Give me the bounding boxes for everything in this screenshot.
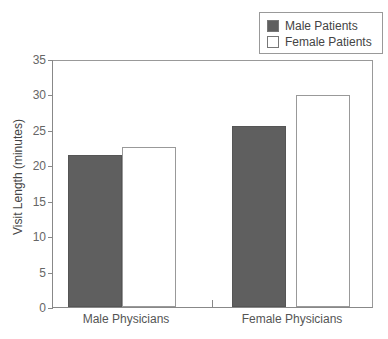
y-tick-label: 35 <box>26 53 46 67</box>
y-axis-title: Visit Length (minutes) <box>11 112 25 242</box>
y-tick <box>48 166 53 167</box>
legend-item-male: Male Patients <box>267 19 358 33</box>
y-tick <box>48 95 53 96</box>
legend: Male Patients Female Patients <box>259 12 383 54</box>
legend-label: Female Patients <box>285 35 372 49</box>
bar-female-patients <box>296 95 350 307</box>
y-tick-label: 10 <box>26 230 46 244</box>
legend-item-female: Female Patients <box>267 35 372 49</box>
y-tick-label: 5 <box>26 266 46 280</box>
swatch-male <box>267 20 279 32</box>
x-label-male-physicians: Male Physicians <box>56 312 196 326</box>
y-tick <box>48 237 53 238</box>
plot-area <box>52 60 373 308</box>
y-tick-label: 15 <box>26 195 46 209</box>
bar-male-patients <box>68 155 122 307</box>
y-tick-label: 20 <box>26 159 46 173</box>
y-tick <box>48 202 53 203</box>
x-label-female-physicians: Female Physicians <box>222 312 362 326</box>
swatch-female <box>267 36 279 48</box>
bar-male-patients <box>232 126 286 307</box>
y-tick <box>48 60 53 61</box>
y-tick <box>48 273 53 274</box>
y-tick-label: 25 <box>26 124 46 138</box>
y-tick <box>48 308 53 309</box>
y-tick-label: 30 <box>26 88 46 102</box>
legend-label: Male Patients <box>285 19 358 33</box>
y-tick-label: 0 <box>26 301 46 315</box>
chart: Male Patients Female Patients Visit Leng… <box>0 0 388 339</box>
x-tick <box>212 300 213 307</box>
y-tick <box>48 131 53 132</box>
bar-female-patients <box>122 147 176 307</box>
